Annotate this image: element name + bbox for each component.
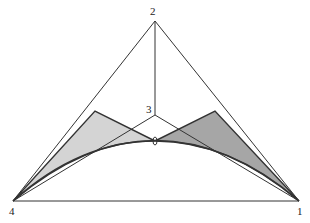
vertex-label-1: 1 — [297, 205, 303, 217]
edge-4-2 — [13, 21, 155, 201]
vertex-label-3: 3 — [146, 103, 152, 115]
curve — [13, 141, 299, 202]
vertex-label-2: 2 — [150, 5, 156, 17]
edge-1-2 — [155, 21, 299, 201]
vertex-label-4: 4 — [9, 205, 15, 217]
tetrahedron-diagram — [0, 0, 310, 223]
